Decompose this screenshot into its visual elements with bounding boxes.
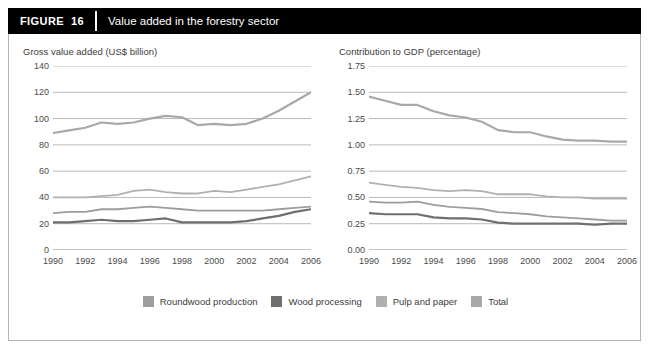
- y-tick-label: 0.25: [347, 219, 365, 229]
- y-tick-label: 100: [34, 114, 49, 124]
- figure-tag: FIGURE 16: [8, 8, 95, 34]
- chart-left-gridlines: [53, 66, 311, 224]
- series-line-total: [53, 92, 311, 133]
- charts-area: Gross value added (US$ billion) 02040608…: [9, 34, 642, 289]
- y-tick-label: 1.50: [347, 87, 365, 97]
- y-tick-label: 0: [44, 245, 49, 255]
- chart-left-x-tick-labels: 199019921994199619982000200220042006: [53, 256, 311, 272]
- y-tick-label: 120: [34, 87, 49, 97]
- chart-legend: Roundwood productionWood processingPulp …: [9, 290, 642, 312]
- legend-swatch-pulp-paper: [376, 296, 387, 307]
- series-line-total: [369, 96, 627, 141]
- y-tick-label: 80: [39, 140, 49, 150]
- y-tick-label: 1.75: [347, 61, 365, 71]
- x-tick-label: 2004: [269, 256, 289, 266]
- x-tick-label: 2000: [520, 256, 540, 266]
- x-tick-label: 2002: [552, 256, 572, 266]
- x-tick-label: 2004: [585, 256, 605, 266]
- legend-label: Total: [488, 296, 508, 307]
- figure-header: FIGURE 16 Value added in the forestry se…: [8, 8, 641, 34]
- x-tick-label: 2000: [204, 256, 224, 266]
- series-line-roundwood-production: [53, 207, 311, 214]
- chart-left-axis-title: Gross value added (US$ billion): [23, 46, 157, 57]
- chart-left-y-tick-labels: 020406080100120140: [9, 66, 49, 250]
- legend-item[interactable]: Wood processing: [271, 296, 361, 307]
- legend-swatch-roundwood: [143, 296, 154, 307]
- legend-swatch-total: [471, 296, 482, 307]
- x-tick-label: 1992: [391, 256, 411, 266]
- legend-item[interactable]: Roundwood production: [143, 296, 258, 307]
- x-tick-label: 1996: [456, 256, 476, 266]
- x-tick-label: 1994: [107, 256, 127, 266]
- figure-number: 16: [71, 15, 84, 27]
- y-tick-label: 0.50: [347, 192, 365, 202]
- chart-right-gridlines: [369, 66, 627, 224]
- chart-right-x-tick-labels: 199019921994199619982000200220042006: [369, 256, 627, 272]
- x-tick-label: 1998: [172, 256, 192, 266]
- x-tick-label: 1990: [43, 256, 63, 266]
- chart-right-series: [369, 96, 627, 224]
- chart-left-series: [53, 92, 311, 222]
- chart-right-svg: [369, 66, 627, 250]
- legend-swatch-wood-processing: [271, 296, 282, 307]
- x-tick-label: 1996: [140, 256, 160, 266]
- y-tick-label: 0.00: [347, 245, 365, 255]
- chart-right-plot: [369, 66, 627, 250]
- series-line-pulp-and-paper: [369, 183, 627, 199]
- legend-item[interactable]: Pulp and paper: [376, 296, 457, 307]
- chart-left-plot: [53, 66, 311, 250]
- y-tick-label: 40: [39, 192, 49, 202]
- series-line-roundwood-production: [369, 202, 627, 221]
- legend-item[interactable]: Total: [471, 296, 508, 307]
- figure-container: FIGURE 16 Value added in the forestry se…: [0, 0, 649, 349]
- x-tick-label: 1990: [359, 256, 379, 266]
- y-tick-label: 1.25: [347, 114, 365, 124]
- chart-contribution-to-gdp: Contribution to GDP (percentage) 0.000.2…: [325, 34, 642, 289]
- chart-right-y-tick-labels: 0.000.250.500.751.001.251.501.75: [325, 66, 365, 250]
- y-tick-label: 0.75: [347, 166, 365, 176]
- figure-title: Value added in the forestry sector: [97, 8, 279, 34]
- chart-left-svg: [53, 66, 311, 250]
- y-tick-label: 140: [34, 61, 49, 71]
- x-tick-label: 2002: [236, 256, 256, 266]
- x-tick-label: 1998: [488, 256, 508, 266]
- figure-tag-label: FIGURE: [20, 15, 64, 27]
- y-tick-label: 1.00: [347, 140, 365, 150]
- y-tick-label: 60: [39, 166, 49, 176]
- x-tick-label: 1992: [75, 256, 95, 266]
- chart-right-axis-title: Contribution to GDP (percentage): [339, 46, 480, 57]
- x-tick-label: 2006: [617, 256, 637, 266]
- chart-gross-value-added: Gross value added (US$ billion) 02040608…: [9, 34, 329, 289]
- legend-label: Wood processing: [288, 296, 361, 307]
- figure-body: Gross value added (US$ billion) 02040608…: [8, 34, 641, 341]
- x-tick-label: 2006: [301, 256, 321, 266]
- x-tick-label: 1994: [423, 256, 443, 266]
- legend-label: Pulp and paper: [393, 296, 457, 307]
- series-line-pulp-and-paper: [53, 176, 311, 197]
- y-tick-label: 20: [39, 219, 49, 229]
- legend-label: Roundwood production: [160, 296, 258, 307]
